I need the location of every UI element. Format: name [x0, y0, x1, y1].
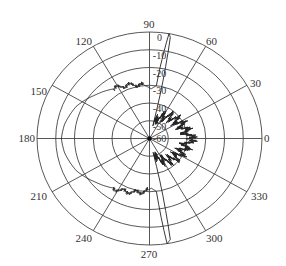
- radial-label: 0: [157, 32, 162, 43]
- angle-label-30: 30: [250, 77, 262, 89]
- radial-label: -60: [153, 133, 166, 144]
- angle-label-270: 270: [141, 248, 158, 260]
- radial-tick-labels: 0-10-20-30-40-50-60: [153, 32, 166, 144]
- angle-label-180: 180: [19, 132, 36, 144]
- grid-spoke: [52, 85, 149, 138]
- angle-label-60: 60: [206, 35, 218, 47]
- grid-spoke: [52, 139, 149, 192]
- radial-label: -30: [153, 85, 166, 96]
- angle-label-120: 120: [76, 35, 93, 47]
- angle-label-240: 240: [76, 232, 93, 244]
- angle-label-300: 300: [206, 232, 223, 244]
- angle-label-150: 150: [31, 85, 48, 97]
- angle-label-210: 210: [31, 190, 48, 202]
- angle-label-330: 330: [251, 190, 268, 202]
- angle-label-90: 90: [144, 18, 156, 30]
- radial-label: -50: [153, 121, 166, 132]
- angle-label-0: 0: [264, 132, 270, 144]
- radial-label: -10: [153, 50, 166, 61]
- angular-tick-labels: 0306090120150180210240270300330: [19, 18, 271, 260]
- center-dot: [147, 136, 151, 140]
- polar-chart: 0306090120150180210240270300330 0-10-20-…: [0, 0, 286, 266]
- radial-label: -40: [153, 103, 166, 114]
- polar-grid: [37, 32, 262, 245]
- radial-label: -20: [153, 68, 166, 79]
- grid-spoke: [150, 139, 206, 231]
